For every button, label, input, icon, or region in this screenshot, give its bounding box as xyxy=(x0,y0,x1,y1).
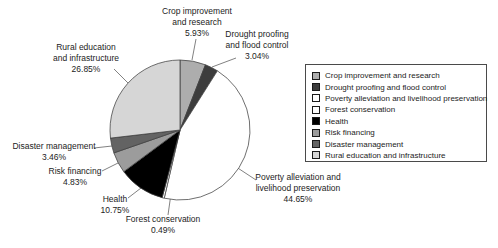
legend-item-forest-conservation: Forest conservation xyxy=(312,104,486,115)
legend-label: Drought proofing and flood control xyxy=(325,83,446,92)
legend-swatch-icon xyxy=(312,140,320,148)
callout-drought-proofing-and-flood-control: Drought proofing and flood control 3.04% xyxy=(199,29,315,62)
legend-item-rural-education-and-infrastructure: Rural education and infrastructure xyxy=(312,150,486,161)
callout-health: Health 10.75% xyxy=(85,194,145,216)
legend-swatch-icon xyxy=(312,151,320,159)
legend-swatch-icon xyxy=(312,106,320,114)
legend-label: Poverty alleviation and livelihood prese… xyxy=(325,94,487,103)
legend-label: Rural education and infrastructure xyxy=(325,151,446,160)
legend-item-risk-financing: Risk financing xyxy=(312,127,486,138)
legend-item-health: Health xyxy=(312,116,486,127)
legend-swatch-icon xyxy=(312,117,320,125)
callout-rural-education-and-infrastructure: Rural education and infrastructure 26.85… xyxy=(26,42,146,75)
legend-label: Disaster management xyxy=(325,140,403,149)
callout-poverty-alleviation-and-livelihood-preservation: Poverty alleviation and livelihood prese… xyxy=(237,172,359,205)
legend-swatch-icon xyxy=(312,129,320,137)
legend-item-disaster-management: Disaster management xyxy=(312,138,486,149)
legend-swatch-icon xyxy=(312,94,320,102)
pie-slices xyxy=(110,60,250,200)
legend-swatch-icon xyxy=(312,83,320,91)
legend-swatch-icon xyxy=(312,72,320,80)
legend-item-poverty-alleviation-and-livelihood-preservation: Poverty alleviation and livelihood prese… xyxy=(312,93,486,104)
callout-disaster-management: Disaster management 3.46% xyxy=(4,141,104,163)
legend-label: Crop improvement and research xyxy=(325,71,440,80)
pie-figure: Crop improvement and research 5.93% Drou… xyxy=(0,0,498,248)
legend-item-drought-proofing-and-flood-control: Drought proofing and flood control xyxy=(312,81,486,92)
leader-line-crop-improvement-and-research xyxy=(192,39,196,60)
legend-label: Forest conservation xyxy=(325,105,395,114)
legend-label: Risk financing xyxy=(325,128,375,137)
legend-item-crop-improvement-and-research: Crop improvement and research xyxy=(312,70,486,81)
legend-label: Health xyxy=(325,117,348,126)
callout-risk-financing: Risk financing 4.83% xyxy=(35,166,115,188)
legend-box: Crop improvement and researchDrought pro… xyxy=(305,64,487,162)
callout-forest-conservation: Forest conservation 0.49% xyxy=(103,214,223,236)
